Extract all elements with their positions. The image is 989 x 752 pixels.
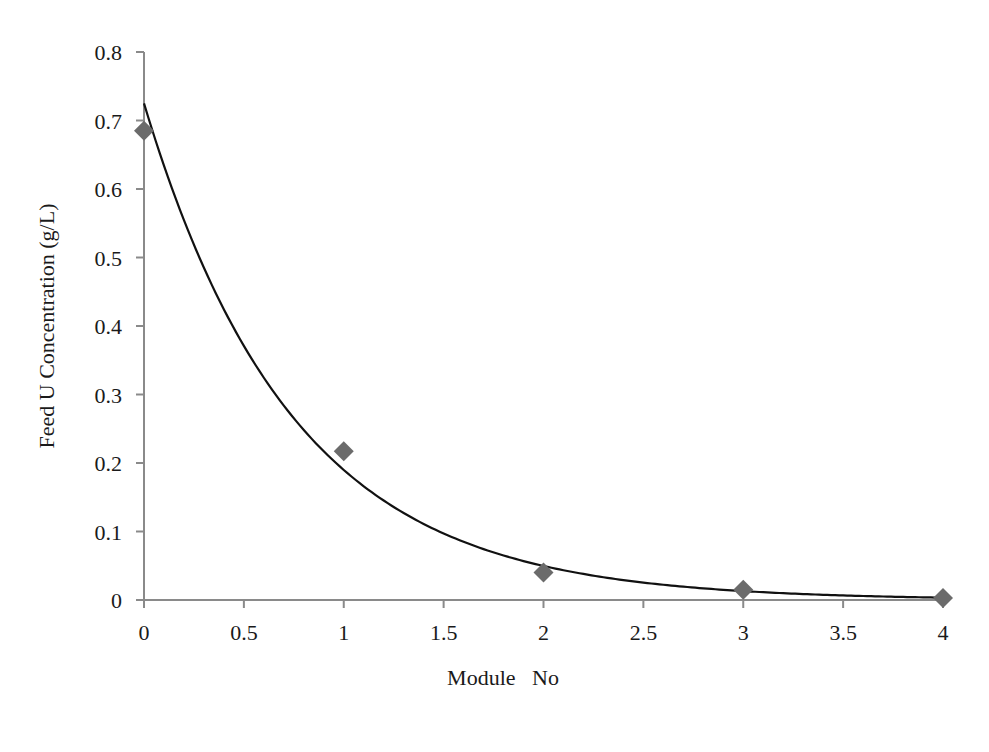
y-tick-label: 0.4 — [95, 314, 123, 339]
x-tick-label: 0.5 — [230, 620, 258, 645]
diamond-marker — [933, 588, 953, 608]
x-tick-label: 2.5 — [630, 620, 658, 645]
x-tick-label: 4 — [938, 620, 949, 645]
y-tick-label: 0.6 — [95, 177, 123, 202]
y-tick-label: 0.1 — [95, 520, 123, 545]
x-tick-label: 1.5 — [430, 620, 458, 645]
y-axis-ticks: 00.10.20.30.40.50.60.70.8 — [95, 40, 145, 613]
x-tick-label: 3.5 — [829, 620, 857, 645]
chart: 00.10.20.30.40.50.60.70.8 00.511.522.533… — [0, 0, 989, 752]
x-tick-label: 2 — [538, 620, 549, 645]
diamond-marker — [733, 580, 753, 600]
x-axis-ticks: 00.511.522.533.54 — [139, 600, 949, 645]
diamond-marker — [334, 441, 354, 461]
x-tick-label: 1 — [338, 620, 349, 645]
exponential-fit-curve — [144, 103, 943, 597]
y-tick-label: 0.5 — [95, 246, 123, 271]
y-tick-label: 0.3 — [95, 383, 123, 408]
diamond-marker — [534, 563, 554, 583]
x-tick-label: 0 — [139, 620, 150, 645]
y-tick-label: 0.2 — [95, 451, 123, 476]
data-markers — [134, 121, 953, 608]
x-axis-title: Module No — [447, 665, 559, 690]
y-tick-label: 0.8 — [95, 40, 123, 65]
x-tick-label: 3 — [738, 620, 749, 645]
y-tick-label: 0.7 — [95, 109, 123, 134]
y-axis-title: Feed U Concentration (g/L) — [34, 204, 59, 449]
y-tick-label: 0 — [111, 588, 122, 613]
